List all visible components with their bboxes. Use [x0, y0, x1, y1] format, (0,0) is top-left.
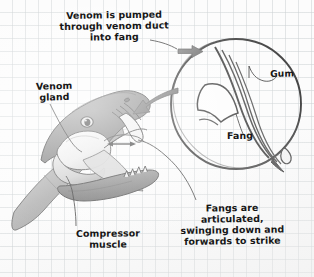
venom-droplet: [281, 148, 291, 164]
snake-eye-highlight: [85, 120, 87, 122]
caption-fang: Fang: [227, 131, 261, 142]
caption-venom-gland: Venom gland: [26, 81, 83, 105]
caption-gum: Gum: [270, 69, 304, 81]
diagram-canvas: Venom is pumped through venom duct into …: [0, 0, 314, 277]
caption-compressor-muscle: Compressor muscle: [62, 228, 154, 251]
gum-tissue-fold: [199, 119, 218, 125]
inset-circle-inner-stroke: [173, 42, 300, 168]
caption-venom-duct: Venom is pumped through venom duct into …: [58, 9, 170, 44]
caption-fangs-articulated: Fangs are articulated, swinging down and…: [176, 202, 289, 248]
gum-tissue: [197, 84, 238, 122]
fang-magnified-inset: [171, 39, 301, 172]
